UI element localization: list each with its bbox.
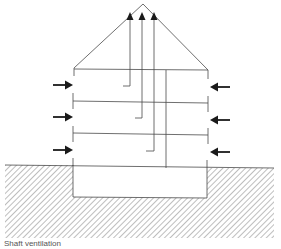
ground <box>5 165 274 238</box>
shaft-2 <box>135 18 142 118</box>
arrow-left-icon <box>210 116 230 125</box>
inflow-arrows-left <box>53 81 73 155</box>
shafts <box>123 18 166 168</box>
outflow-arrows <box>127 12 158 20</box>
arrow-right-icon <box>53 146 73 155</box>
roof <box>74 4 208 70</box>
shaft-3 <box>146 18 154 151</box>
arrow-right-icon <box>53 81 73 90</box>
floor-slabs <box>73 69 208 135</box>
diagram-caption: Shaft ventilation <box>4 239 61 248</box>
shaft-1 <box>123 18 130 86</box>
basement <box>73 165 207 198</box>
arrow-up-icon <box>127 12 134 20</box>
shaft-ventilation-diagram <box>0 0 281 249</box>
arrow-right-icon <box>53 113 73 122</box>
arrow-left-icon <box>210 83 230 92</box>
arrow-left-icon <box>210 148 230 157</box>
arrow-up-icon <box>139 12 146 20</box>
inflow-arrows-right <box>210 83 230 157</box>
